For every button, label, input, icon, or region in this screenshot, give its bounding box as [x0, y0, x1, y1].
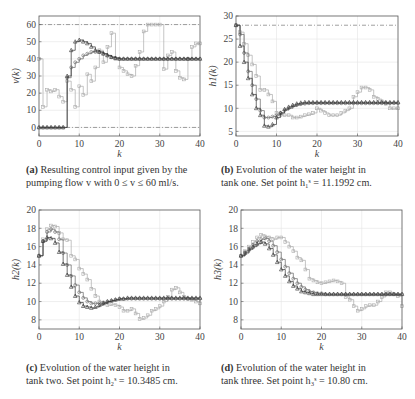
x-tick-label: 10 — [272, 139, 282, 149]
y-tick-label: 12 — [27, 278, 37, 288]
x-tick-label: 40 — [195, 139, 205, 149]
caption-c: (c) Evolution of the water height in tan… — [26, 361, 202, 387]
caption-d-line1: Evolution of the water height in — [236, 362, 366, 373]
x-tick-label: 30 — [155, 139, 165, 149]
caption-d-label: (d) — [221, 362, 233, 373]
y-axis-label: h3(k) — [212, 258, 224, 280]
y-tick-label: 50 — [27, 37, 37, 47]
y-tick-label: 10 — [224, 104, 234, 114]
y-tick-label: 5 — [228, 127, 233, 137]
y-tick-label: 12 — [229, 278, 239, 288]
y-tick-label: 60 — [27, 20, 37, 30]
caption-b-label: (b) — [221, 164, 233, 175]
caption-c-label: (c) — [26, 362, 37, 373]
y-tick-label: 20 — [229, 205, 239, 215]
chart-d: 0102030408101214161820kh3(k) — [212, 205, 407, 352]
caption-a-line2: pumping flow v with 0 ≤ v ≤ 60 ml/s. — [26, 176, 202, 189]
x-tick-label: 10 — [75, 139, 85, 149]
y-axis-label: h1(k) — [207, 65, 219, 87]
x-tick-label: 40 — [195, 332, 205, 342]
x-tick-label: 0 — [239, 332, 244, 342]
y-tick-label: 16 — [229, 242, 239, 252]
x-tick-label: 0 — [37, 332, 42, 342]
caption-a-line1: Resulting control input given by the — [40, 164, 187, 175]
caption-d-line2: tank three. Set point h₃ˢ = 10.80 cm. — [221, 374, 399, 387]
x-tick-label: 10 — [75, 332, 85, 342]
x-tick-label: 30 — [155, 332, 165, 342]
x-tick-label: 40 — [393, 139, 403, 149]
y-axis-label: v(k) — [10, 68, 22, 84]
caption-b-line1: Evolution of the water height in — [236, 164, 366, 175]
y-tick-label: 30 — [27, 71, 37, 81]
caption-b-line2: tank one. Set point h₁ˢ = 11.1992 cm. — [221, 176, 399, 189]
y-tick-label: 10 — [27, 105, 37, 115]
caption-b: (b) Evolution of the water height in tan… — [221, 163, 399, 189]
y-tick-label: 30 — [224, 11, 234, 21]
y-tick-label: 15 — [224, 80, 234, 90]
chart-c: 0102030408101214161820kh2(k) — [10, 205, 205, 352]
y-tick-label: 0 — [31, 123, 36, 133]
chart-b: 01020304051015202530kh1(k) — [207, 11, 403, 159]
x-tick-label: 10 — [277, 332, 287, 342]
y-axis-label: h2(k) — [10, 258, 22, 280]
y-tick-label: 40 — [27, 54, 37, 64]
y-tick-label: 10 — [229, 297, 239, 307]
y-tick-label: 25 — [224, 34, 234, 44]
x-axis-label: k — [319, 341, 324, 352]
figure-canvas: 0102030400102030405060kv(k)0102030405101… — [0, 0, 415, 399]
y-tick-label: 14 — [27, 260, 37, 270]
y-tick-label: 20 — [27, 88, 37, 98]
x-axis-label: k — [117, 341, 122, 352]
x-tick-label: 30 — [357, 332, 367, 342]
x-tick-label: 0 — [37, 139, 42, 149]
x-tick-label: 0 — [234, 139, 239, 149]
y-tick-label: 14 — [229, 260, 239, 270]
x-tick-label: 30 — [353, 139, 363, 149]
x-axis-label: k — [117, 148, 122, 159]
y-tick-label: 16 — [27, 242, 37, 252]
y-tick-label: 18 — [229, 224, 239, 234]
y-tick-label: 20 — [27, 205, 37, 215]
y-tick-label: 20 — [224, 57, 234, 67]
y-tick-label: 8 — [31, 315, 36, 325]
caption-c-line1: Evolution of the water height in — [40, 362, 170, 373]
chart-a: 0102030400102030405060kv(k) — [10, 16, 205, 159]
x-axis-label: k — [315, 148, 320, 159]
y-tick-label: 10 — [27, 297, 37, 307]
caption-a: (a) Resulting control input given by the… — [26, 163, 202, 189]
x-tick-label: 40 — [397, 332, 407, 342]
y-tick-label: 18 — [27, 224, 37, 234]
y-tick-label: 8 — [233, 315, 238, 325]
caption-a-label: (a) — [26, 164, 38, 175]
caption-d: (d) Evolution of the water height in tan… — [221, 361, 399, 387]
caption-c-line2: tank two. Set point h₂ˢ = 10.3485 cm. — [26, 374, 202, 387]
